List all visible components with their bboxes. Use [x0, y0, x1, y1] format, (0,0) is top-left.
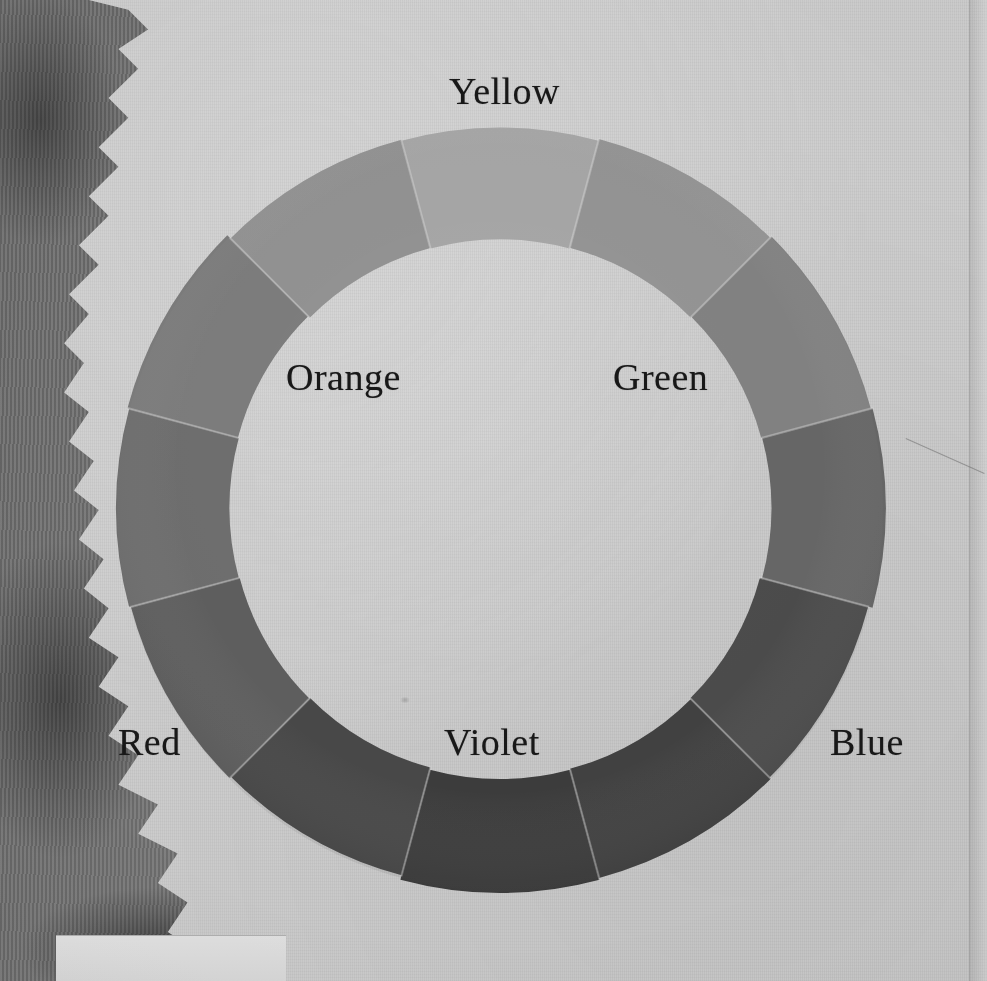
- wheel-label-yellow: Yellow: [449, 72, 560, 110]
- bottom-sheet-strip: [56, 935, 286, 981]
- color-wheel-plate: Yellow Orange Green Red Violet Blue: [0, 0, 987, 981]
- wheel-label-blue: Blue: [830, 723, 904, 761]
- color-wheel-figure: [0, 0, 987, 981]
- wheel-segment-red-orange: [116, 409, 239, 608]
- wheel-label-violet: Violet: [444, 723, 540, 761]
- wheel-segment-violet: [400, 770, 599, 893]
- wheel-label-red: Red: [118, 723, 181, 761]
- wheel-label-orange: Orange: [286, 358, 401, 396]
- wheel-label-green: Green: [613, 358, 708, 396]
- color-wheel-svg: [0, 0, 987, 981]
- wheel-segment-yellow: [402, 128, 599, 249]
- wheel-segment-blue-green: [762, 408, 886, 608]
